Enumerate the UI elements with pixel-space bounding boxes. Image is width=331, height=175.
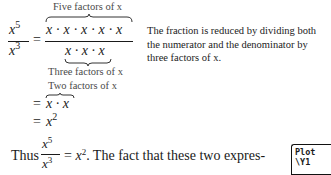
explanation-note: The fraction is reduced by dividing both… xyxy=(147,24,331,65)
three-factors-label: Three factors of x xyxy=(48,66,123,77)
lhs-denominator: x3 xyxy=(9,43,20,59)
step3-equals: = xyxy=(33,114,41,130)
step2-expression: x · x xyxy=(46,96,69,112)
five-factors-label: Five factors of x xyxy=(53,1,122,12)
calc-line-plot: Plot xyxy=(295,147,331,157)
main-fraction-bar xyxy=(45,41,133,42)
numerator-five-factors: x · x · x · x · x xyxy=(46,22,122,38)
lhs-numerator: x5 xyxy=(9,22,20,38)
step3-expression: x2 xyxy=(46,114,57,130)
step2-equals: = xyxy=(33,96,41,112)
sentence-denominator: x3 xyxy=(42,156,52,172)
denominator-three-factors: x · x · x xyxy=(65,43,105,59)
thus-word: Thus xyxy=(11,148,39,164)
calc-line-y1: \Y1 xyxy=(295,157,331,167)
calculator-screen: Plot \Y1 xyxy=(291,144,331,175)
sentence-numerator: x5 xyxy=(42,136,52,152)
two-factors-label: Two factors of x xyxy=(48,80,117,91)
sentence-rest: = x2. The fact that these two expres- xyxy=(64,148,265,164)
equals-sign: = xyxy=(33,32,41,48)
